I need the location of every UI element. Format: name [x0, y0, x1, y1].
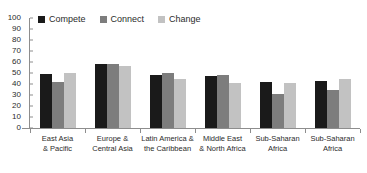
y-tick-label: 60	[12, 58, 21, 66]
bar-group	[85, 18, 140, 128]
category-label-line: & Pacific	[30, 144, 85, 154]
bar-connect	[162, 73, 174, 128]
y-tick-label: 100	[8, 14, 21, 22]
x-tick-mark	[305, 129, 306, 133]
category-label: Sub-SaharanAfrica	[305, 134, 360, 168]
bar-connect	[107, 64, 119, 128]
category-label-line: Sub-Saharan	[305, 134, 360, 144]
y-tick-label: 70	[12, 47, 21, 55]
bar-group	[195, 18, 250, 128]
bar-compete	[95, 64, 107, 128]
category-labels: East Asia& PacificEurope &Central AsiaLa…	[30, 134, 360, 168]
bar-group	[250, 18, 305, 128]
bar-compete	[205, 76, 217, 128]
bar-change	[284, 83, 296, 128]
bar-change	[339, 79, 351, 129]
x-tick-mark	[140, 129, 141, 133]
bar-group	[140, 18, 195, 128]
bar-chart: Compete Connect Change 10090807060504030…	[0, 0, 367, 173]
bar-connect	[52, 82, 64, 128]
bar-group	[305, 18, 360, 128]
bar-group	[30, 18, 85, 128]
category-label: Middle East& North Africa	[195, 134, 250, 168]
y-tick-label: 20	[12, 102, 21, 110]
category-label-line: Latin America &	[140, 134, 195, 144]
y-tick-label: 40	[12, 80, 21, 88]
y-tick-label: 0	[17, 124, 21, 132]
y-tick-label: 50	[12, 69, 21, 77]
category-label-line: Sub-Saharan	[250, 134, 305, 144]
y-tick-label: 80	[12, 36, 21, 44]
category-label-line: Central Asia	[85, 144, 140, 154]
y-tick-label: 90	[12, 25, 21, 33]
category-label: Europe &Central Asia	[85, 134, 140, 168]
x-tick-mark	[360, 129, 361, 133]
x-tick-mark	[250, 129, 251, 133]
bar-connect	[272, 94, 284, 128]
category-label: Latin America &the Caribbean	[140, 134, 195, 168]
y-tick-label: 10	[12, 113, 21, 121]
y-axis-ticks: 1009080706050403020100	[0, 18, 29, 129]
x-tick-mark	[85, 129, 86, 133]
x-tick-mark	[195, 129, 196, 133]
bar-change	[229, 83, 241, 128]
category-label-line: the Caribbean	[140, 144, 195, 154]
bar-connect	[327, 90, 339, 128]
bar-compete	[260, 82, 272, 128]
category-label-line: Europe &	[85, 134, 140, 144]
category-label-line: Middle East	[195, 134, 250, 144]
x-axis-line	[22, 128, 360, 129]
y-tick-label: 30	[12, 91, 21, 99]
category-label-line: & North Africa	[195, 144, 250, 154]
bar-change	[174, 79, 186, 128]
bar-compete	[315, 81, 327, 128]
bar-compete	[40, 74, 52, 128]
category-label-line: Africa	[305, 144, 360, 154]
category-label-line: East Asia	[30, 134, 85, 144]
category-label: East Asia& Pacific	[30, 134, 85, 168]
bar-groups	[30, 18, 360, 128]
bar-connect	[217, 75, 229, 128]
category-label-line: Africa	[250, 144, 305, 154]
category-label: Sub-SaharanAfrica	[250, 134, 305, 168]
bar-change	[64, 73, 76, 128]
bar-change	[119, 66, 131, 128]
bar-compete	[150, 75, 162, 128]
x-tick-mark	[30, 129, 31, 133]
